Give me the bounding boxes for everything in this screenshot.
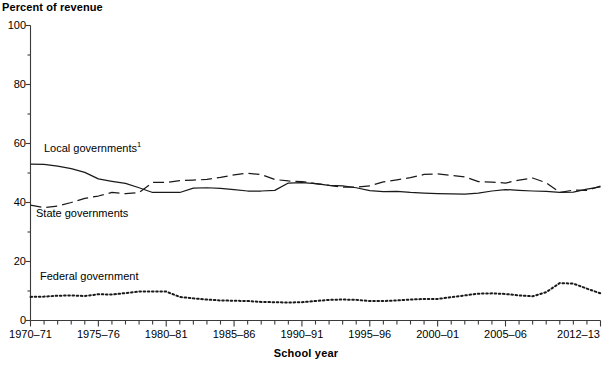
series-line-federal-government (31, 283, 601, 302)
series-label-local-governments: Local governments1 (44, 142, 141, 154)
series-label-state-governments: State governments (36, 207, 128, 219)
chart-container: Percent of revenue School year 020406080… (0, 0, 612, 368)
footnote-marker: 1 (137, 140, 141, 149)
series-line-local-governments (31, 164, 601, 194)
plot-area (0, 0, 612, 368)
series-label-federal-government: Federal government (40, 270, 138, 282)
